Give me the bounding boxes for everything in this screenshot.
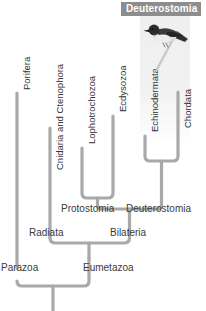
stem-deuterostomia [158,161,162,209]
node-label-eumetazoa: Eumetazoa [83,262,134,273]
cladogram-diagram: Deuterostomia [0,0,206,311]
taxon-label-echinodermata: Echinodermata [150,68,160,132]
node-label-parazoa: Parazoa [1,262,38,273]
node-label-radiata: Radiata [29,227,63,238]
deuterostomia-badge: Deuterostomia [121,2,201,16]
bird-icon [141,19,189,71]
taxon-label-porifera: Porifera [22,57,32,90]
node-label-protostomia: Protostomia [61,203,114,214]
node-label-deuterostomia: Deuterostomia [126,203,191,214]
taxon-label-ecdysozoa: Ecdysozoa [118,66,128,112]
taxon-label-chordata: Chordata [183,89,193,128]
node-label-bilateria: Bilateria [110,227,146,238]
taxon-label-lophotrochozoa: Lophotrochozoa [87,76,97,144]
taxon-label-cnidaria: Cnidaria and Ctenophora [55,64,65,170]
